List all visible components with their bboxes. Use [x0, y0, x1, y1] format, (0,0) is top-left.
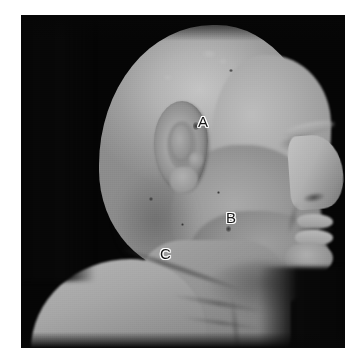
subject-head-and-neck: [21, 15, 345, 348]
background-top: [21, 15, 345, 41]
clinical-figure: A B C: [0, 0, 362, 364]
background-left: [21, 15, 95, 281]
background-bottom: [21, 332, 345, 348]
scalp-highlight: [199, 51, 219, 57]
annotation-label-c: C: [160, 246, 171, 261]
photograph-plate: A B C: [21, 15, 345, 348]
annotation-label-a: A: [198, 114, 208, 129]
ear-tragus: [189, 152, 203, 168]
skin-mark: [181, 223, 184, 226]
ear-antihelix: [171, 125, 191, 159]
scalp-highlight: [161, 75, 175, 80]
scalp-highlight: [217, 59, 229, 64]
annotation-label-b: B: [226, 210, 236, 225]
lesion-marker-b: [226, 226, 231, 232]
skin-mark: [217, 191, 220, 194]
skin-mark: [149, 197, 153, 201]
skin-mark: [229, 69, 233, 72]
